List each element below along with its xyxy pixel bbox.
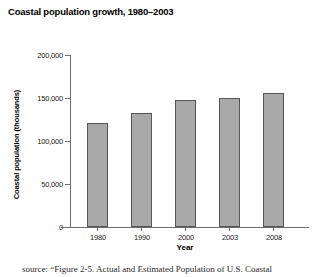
bar-slot: 2008 [252,55,296,227]
bar [87,123,108,227]
bar-slot: 2000 [164,55,208,227]
x-axis-title: Year [70,243,300,252]
y-tick-label: 150,000 [37,94,63,103]
y-tick-label: 0 [59,223,63,232]
x-tick-mark [97,227,98,231]
plot-area: 0 50,000 100,000 150,000 200,000 [70,55,300,227]
x-tick-mark [141,227,142,231]
x-tick-mark [273,227,274,231]
bar-slot: 2003 [208,55,252,227]
bar [219,98,240,227]
bar [131,113,152,227]
x-tick-label: 2003 [208,233,252,242]
x-tick-label: 1990 [120,233,164,242]
x-tick-mark [185,227,186,231]
bar-slot: 1990 [120,55,164,227]
y-tick-mark [65,227,70,228]
chart-title: Coastal population growth, 1980–2003 [8,6,173,17]
chart-figure: Coastal population growth, 1980–2003 Coa… [0,0,318,277]
bar [263,93,284,227]
y-tick-label: 100,000 [37,137,63,146]
bar [175,100,196,227]
y-tick-label: 50,000 [41,180,63,189]
bar-slot: 1980 [76,55,120,227]
x-tick-mark [229,227,230,231]
x-tick-label: 2000 [164,233,208,242]
x-tick-label: 1980 [76,233,120,242]
bar-series: 1980 1990 2000 2003 2008 [70,55,300,227]
y-axis-title: Coastal population (thousands) [12,65,21,225]
y-tick-label: 200,000 [37,51,63,60]
source-note: source: “Figure 2-5. Actual and Estimate… [22,264,312,275]
x-tick-label: 2008 [252,233,296,242]
